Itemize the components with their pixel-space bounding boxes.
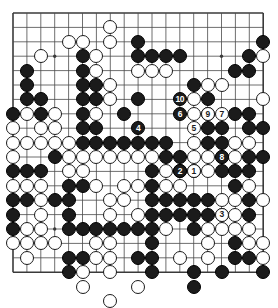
white-stone[interactable] — [20, 251, 34, 265]
black-stone[interactable] — [62, 179, 76, 193]
white-stone[interactable] — [256, 251, 270, 265]
black-stone[interactable] — [6, 107, 20, 121]
black-stone[interactable] — [62, 265, 76, 279]
black-stone[interactable] — [145, 136, 159, 150]
black-stone[interactable] — [76, 64, 90, 78]
black-stone[interactable] — [145, 208, 159, 222]
black-stone[interactable] — [159, 136, 173, 150]
black-stone[interactable] — [201, 193, 215, 207]
white-stone[interactable] — [145, 64, 159, 78]
black-stone[interactable] — [187, 265, 201, 279]
white-stone[interactable] — [131, 280, 145, 294]
white-stone[interactable] — [187, 136, 201, 150]
black-stone[interactable] — [201, 136, 215, 150]
white-stone[interactable] — [34, 193, 48, 207]
black-stone[interactable] — [76, 136, 90, 150]
black-stone[interactable] — [173, 150, 187, 164]
white-stone[interactable] — [131, 64, 145, 78]
black-stone[interactable] — [131, 35, 145, 49]
white-stone[interactable] — [34, 121, 48, 135]
white-stone[interactable] — [215, 193, 229, 207]
black-stone[interactable] — [62, 193, 76, 207]
black-stone[interactable] — [6, 208, 20, 222]
black-stone[interactable] — [256, 35, 270, 49]
white-stone[interactable] — [34, 136, 48, 150]
black-stone[interactable] — [131, 251, 145, 265]
white-stone[interactable] — [62, 150, 76, 164]
black-stone[interactable] — [187, 222, 201, 236]
white-stone[interactable] — [20, 107, 34, 121]
black-stone[interactable] — [159, 49, 173, 63]
black-stone[interactable] — [215, 164, 229, 178]
white-stone[interactable] — [76, 265, 90, 279]
white-stone[interactable] — [159, 179, 173, 193]
white-stone[interactable] — [20, 179, 34, 193]
black-stone[interactable] — [242, 251, 256, 265]
black-stone[interactable] — [131, 136, 145, 150]
white-stone[interactable] — [20, 136, 34, 150]
white-stone[interactable] — [48, 107, 62, 121]
white-stone[interactable] — [48, 236, 62, 250]
white-stone[interactable] — [173, 179, 187, 193]
white-stone[interactable] — [215, 78, 229, 92]
white-stone[interactable] — [187, 150, 201, 164]
white-stone[interactable] — [34, 49, 48, 63]
white-stone[interactable] — [159, 222, 173, 236]
black-stone[interactable] — [20, 64, 34, 78]
black-stone[interactable] — [76, 251, 90, 265]
black-stone[interactable] — [76, 92, 90, 106]
black-stone[interactable] — [76, 121, 90, 135]
white-stone[interactable] — [131, 150, 145, 164]
white-stone[interactable] — [62, 164, 76, 178]
black-stone[interactable] — [145, 222, 159, 236]
black-stone[interactable] — [117, 136, 131, 150]
white-stone[interactable] — [76, 280, 90, 294]
white-stone[interactable] — [131, 208, 145, 222]
black-stone[interactable] — [201, 208, 215, 222]
black-stone[interactable] — [103, 136, 117, 150]
black-stone[interactable] — [173, 193, 187, 207]
black-stone[interactable] — [201, 121, 215, 135]
white-stone[interactable] — [159, 64, 173, 78]
black-stone[interactable] — [187, 78, 201, 92]
black-stone[interactable] — [62, 251, 76, 265]
black-stone[interactable] — [76, 78, 90, 92]
white-stone[interactable] — [6, 136, 20, 150]
black-stone[interactable] — [159, 150, 173, 164]
black-stone[interactable] — [89, 136, 103, 150]
white-stone[interactable] — [6, 179, 20, 193]
white-stone[interactable] — [215, 222, 229, 236]
white-stone[interactable] — [187, 107, 201, 121]
white-stone[interactable] — [34, 222, 48, 236]
black-stone[interactable] — [215, 136, 229, 150]
white-stone[interactable] — [201, 251, 215, 265]
black-stone[interactable] — [48, 193, 62, 207]
white-stone[interactable] — [201, 236, 215, 250]
white-stone[interactable] — [76, 164, 90, 178]
white-stone[interactable] — [103, 208, 117, 222]
black-stone[interactable] — [159, 193, 173, 207]
black-stone[interactable] — [187, 280, 201, 294]
black-stone[interactable] — [201, 92, 215, 106]
black-stone[interactable] — [62, 222, 76, 236]
black-stone[interactable] — [62, 208, 76, 222]
white-stone[interactable] — [117, 179, 131, 193]
black-stone[interactable] — [242, 208, 256, 222]
black-stone[interactable] — [173, 208, 187, 222]
white-stone[interactable] — [34, 179, 48, 193]
black-stone[interactable] — [228, 64, 242, 78]
black-stone[interactable] — [173, 49, 187, 63]
black-stone[interactable] — [145, 251, 159, 265]
black-stone[interactable] — [187, 193, 201, 207]
black-stone[interactable] — [159, 208, 173, 222]
white-stone[interactable] — [242, 179, 256, 193]
white-stone[interactable] — [20, 222, 34, 236]
white-stone[interactable] — [201, 78, 215, 92]
white-stone[interactable] — [48, 136, 62, 150]
black-stone[interactable] — [76, 107, 90, 121]
black-stone[interactable] — [131, 222, 145, 236]
black-stone[interactable] — [187, 208, 201, 222]
white-stone[interactable] — [103, 35, 117, 49]
white-stone[interactable] — [173, 251, 187, 265]
white-stone[interactable] — [89, 64, 103, 78]
